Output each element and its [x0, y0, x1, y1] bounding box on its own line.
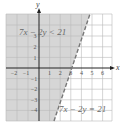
y-tick: 1 — [34, 55, 37, 61]
x-tick: −2 — [11, 70, 17, 76]
x-tick: 3 — [69, 70, 72, 76]
x-tick: 2 — [59, 70, 62, 76]
x-tick: 6 — [101, 70, 104, 76]
y-tick: −3 — [31, 97, 37, 103]
y-tick: 2 — [34, 44, 37, 50]
y-tick: −2 — [31, 86, 37, 92]
x-tick: −1 — [23, 70, 29, 76]
x-tick: 1 — [48, 70, 51, 76]
x-tick: 5 — [91, 70, 94, 76]
inequality-graph: x y −2 −1 1 2 3 4 5 6 3 2 1 −1 −2 −3 −4 … — [0, 0, 120, 124]
y-tick: −4 — [31, 107, 37, 113]
x-axis-label: x — [115, 63, 120, 72]
y-axis-label: y — [35, 0, 40, 9]
y-tick: −1 — [31, 76, 37, 82]
equation-label: 7x − 2y = 21 — [59, 104, 106, 114]
x-axis-arrow-icon — [110, 66, 115, 70]
x-tick: 4 — [80, 70, 83, 76]
inequality-label: 7x − 2y < 21 — [19, 27, 66, 37]
